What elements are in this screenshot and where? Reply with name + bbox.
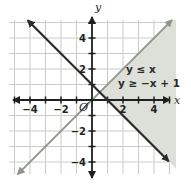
x-axis-label: x (174, 94, 181, 107)
svg-text:−4: −4 (22, 104, 37, 115)
svg-text:4: 4 (151, 104, 158, 115)
graph-svg: −4−22442−2−4xyOy ≤ xy ≥ −x + 1 (0, 0, 191, 185)
svg-text:y ≥ −x + 1: y ≥ −x + 1 (118, 77, 180, 89)
origin-label: O (79, 101, 89, 114)
inequality-graph-panel: −4−22442−2−4xyOy ≤ xy ≥ −x + 1 (0, 0, 191, 185)
svg-text:2: 2 (79, 64, 86, 75)
y-axis-label: y (94, 1, 102, 14)
svg-text:4: 4 (79, 33, 86, 44)
svg-text:−2: −2 (53, 104, 68, 115)
svg-text:2: 2 (120, 104, 127, 115)
svg-text:−2: −2 (71, 126, 86, 137)
svg-text:−4: −4 (71, 157, 86, 168)
svg-text:y ≤ x: y ≤ x (126, 63, 156, 75)
inequality-graph: −4−22442−2−4xyOy ≤ xy ≥ −x + 1 (0, 0, 191, 185)
